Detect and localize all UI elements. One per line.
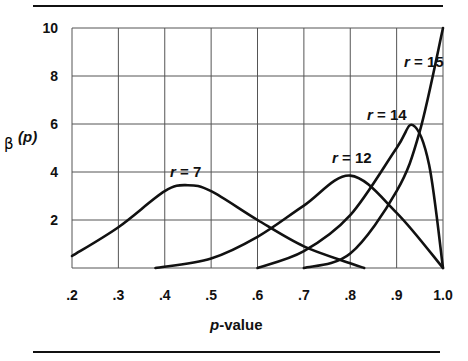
y-tick-label: 2	[50, 212, 58, 228]
x-tick-label: .2	[66, 287, 78, 303]
x-tick-label: .9	[391, 287, 403, 303]
y-tick-label: 4	[50, 164, 58, 180]
y-tick-label: 8	[50, 68, 58, 84]
y-tick-labels: 246810	[42, 20, 58, 228]
grid	[72, 28, 443, 268]
x-tick-label: 1.0	[433, 287, 453, 303]
x-tick-labels: .2.3.4.5.6.7.8.91.0	[66, 287, 453, 303]
label-r15: r = 15	[404, 53, 444, 70]
x-tick-label: .8	[344, 287, 356, 303]
x-tick-label: .4	[159, 287, 171, 303]
chart: 246810 .2.3.4.5.6.7.8.91.0 r = 7 r = 12 …	[0, 0, 468, 361]
x-axis-label: p-value	[209, 316, 263, 333]
y-tick-label: 10	[42, 20, 58, 36]
label-r7: r = 7	[170, 163, 201, 180]
x-tick-label: .3	[113, 287, 125, 303]
y-axis-label: β (p)	[4, 128, 37, 153]
y-tick-label: 6	[50, 116, 58, 132]
label-r12: r = 12	[332, 149, 372, 166]
x-tick-label: .6	[252, 287, 264, 303]
x-tick-label: .5	[205, 287, 217, 303]
x-tick-label: .7	[298, 287, 310, 303]
label-r14: r = 14	[367, 106, 407, 123]
